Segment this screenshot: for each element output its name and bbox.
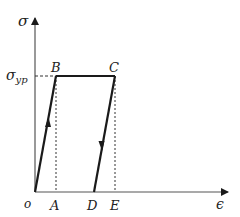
origin-label: o [24,197,31,211]
loading-line-OB [35,76,56,192]
point-label-C: C [109,60,119,75]
stress-strain-diagram: σ σyp B C o A D E ϵ [0,0,240,217]
y-axis-label: σ [18,12,29,30]
down-arrow-icon [99,141,105,151]
yield-stress-label: σyp [6,67,28,85]
point-label-D: D [86,198,98,213]
up-arrow-icon [45,117,51,127]
point-label-E: E [109,198,120,213]
unloading-line-CD [94,76,115,192]
point-label-A: A [49,198,59,213]
point-label-B: B [50,60,61,75]
x-axis-label: ϵ [216,196,224,212]
